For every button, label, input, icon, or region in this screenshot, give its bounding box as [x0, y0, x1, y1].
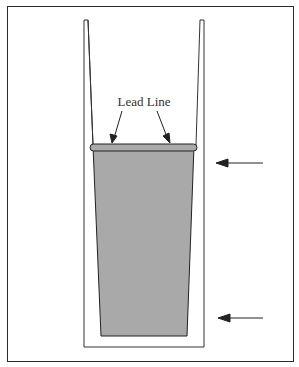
- lead-line-rim: [90, 144, 197, 151]
- lead-line-label: Lead Line: [117, 94, 170, 109]
- diagram-canvas: Lead Line: [0, 0, 299, 367]
- filled-vessel: [90, 144, 197, 336]
